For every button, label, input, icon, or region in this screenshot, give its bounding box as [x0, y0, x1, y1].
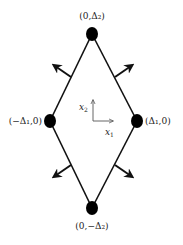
vertex-right — [131, 114, 143, 128]
normal-arrow-upper-left — [55, 66, 71, 77]
vertex-top — [86, 27, 98, 41]
x1-axis-label: x1 — [105, 127, 114, 138]
x2-axis-label: x2 — [79, 102, 88, 113]
edge-bottom-right — [92, 121, 137, 208]
coordinate-axes: x2 x1 — [79, 100, 114, 138]
edge-bottom-left — [50, 121, 92, 208]
normal-arrow-lower-left — [55, 165, 71, 176]
label-right: (Δ₁,0) — [145, 116, 171, 126]
edge-top-right — [92, 34, 137, 121]
rhombus-diagram: (0,Δ₂) (−Δ₁,0) (Δ₁,0) (0,−Δ₂) x2 x1 — [0, 0, 183, 245]
normal-arrow-lower-right — [115, 165, 131, 176]
normal-arrow-upper-right — [115, 66, 131, 77]
label-bottom: (0,−Δ₂) — [75, 221, 108, 231]
label-top: (0,Δ₂) — [79, 11, 105, 21]
vertex-left — [44, 114, 56, 128]
label-left: (−Δ₁,0) — [9, 116, 42, 126]
vertex-bottom — [86, 201, 98, 215]
